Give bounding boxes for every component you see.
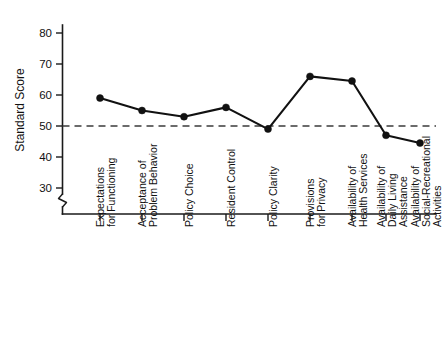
x-label-group-2: Policy Choice xyxy=(183,163,195,227)
x-label-2-line-0: Policy Choice xyxy=(183,163,195,227)
data-point xyxy=(223,104,230,111)
y-tick-label-60: 60 xyxy=(39,89,52,101)
data-point xyxy=(349,78,356,85)
x-label-4-line-0: Policy Clarity xyxy=(267,166,279,227)
y-axis-title: Standard Score xyxy=(13,68,27,152)
x-label-group-5: Provisions for Privacy xyxy=(304,177,327,227)
x-label-5-line-1: for Privacy xyxy=(315,177,327,227)
chart-canvas: 80 70 60 50 40 30 Standard Score xyxy=(0,0,443,344)
x-label-3-line-0: Resident Control xyxy=(225,149,237,227)
y-tick-label-40: 40 xyxy=(39,151,52,163)
data-point xyxy=(307,73,314,80)
x-label-7-line-2: Assistance xyxy=(397,176,409,227)
line-chart: 80 70 60 50 40 30 Standard Score xyxy=(0,0,443,344)
x-label-0-line-1: for Functioning xyxy=(105,157,117,227)
x-label-6-line-1: Health Services xyxy=(357,153,369,227)
y-tick-label-30: 30 xyxy=(39,182,52,194)
y-tick-label-50: 50 xyxy=(39,120,52,132)
data-point xyxy=(181,113,188,120)
data-point xyxy=(139,107,146,114)
x-label-group-3: Resident Control xyxy=(225,149,237,227)
x-label-group-4: Policy Clarity xyxy=(267,166,279,227)
y-tick-label-70: 70 xyxy=(39,58,52,70)
data-point xyxy=(383,132,390,139)
x-label-8-line-2: Activities xyxy=(431,186,443,227)
x-label-1-line-1: Problem Behavior xyxy=(147,143,159,227)
data-point xyxy=(265,126,272,133)
x-label-group-0: Expectations for Functioning xyxy=(94,157,117,227)
y-tick-label-80: 80 xyxy=(39,27,52,39)
data-point xyxy=(97,95,104,102)
